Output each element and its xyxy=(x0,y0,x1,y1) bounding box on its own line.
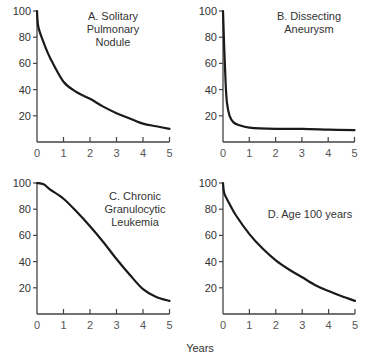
x-tick-label: 4 xyxy=(140,147,146,159)
x-tick-label: 4 xyxy=(326,319,332,331)
x-tick-label: 2 xyxy=(273,319,279,331)
y-tick-label: 20 xyxy=(19,282,31,294)
chart-canvas: 2040608010001234520406080100012345204060… xyxy=(0,0,368,360)
panel-c-title-line: Granulocytic xyxy=(95,203,175,216)
survival-curves-figure: 2040608010001234520406080100012345204060… xyxy=(0,0,368,360)
panel-a-title: A. Solitary Pulmonary Nodule xyxy=(58,10,168,49)
y-tick-label: 40 xyxy=(19,84,31,96)
panel-c-title-line: Leukemia xyxy=(95,216,175,229)
x-tick-label: 5 xyxy=(351,147,357,159)
y-tick-label: 20 xyxy=(205,282,217,294)
x-tick-label: 3 xyxy=(299,319,305,331)
y-tick-label: 40 xyxy=(19,256,31,268)
x-tick-label: 5 xyxy=(166,147,172,159)
y-tick-label: 100 xyxy=(199,177,217,189)
survival-curve xyxy=(223,183,355,301)
x-tick-label: 3 xyxy=(113,147,119,159)
y-tick-label: 60 xyxy=(19,57,31,69)
x-tick-label: 0 xyxy=(220,147,226,159)
x-tick-label: 2 xyxy=(87,319,93,331)
x-tick-label: 0 xyxy=(220,319,226,331)
y-tick-label: 60 xyxy=(205,57,217,69)
x-tick-label: 0 xyxy=(34,147,40,159)
y-tick-label: 100 xyxy=(199,5,217,17)
x-tick-label: 1 xyxy=(60,319,66,331)
panel-d: 20406080100012345 xyxy=(199,177,358,331)
panel-b-title: B. Dissecting Aneurysm xyxy=(254,10,364,36)
x-tick-label: 1 xyxy=(246,147,252,159)
panel-c-title: C. Chronic Granulocytic Leukemia xyxy=(95,190,175,229)
x-tick-label: 2 xyxy=(273,147,279,159)
y-tick-label: 100 xyxy=(13,5,31,17)
x-tick-label: 3 xyxy=(113,319,119,331)
panel-c-title-line: C. Chronic xyxy=(95,190,175,203)
y-tick-label: 80 xyxy=(205,203,217,215)
y-tick-label: 60 xyxy=(19,229,31,241)
x-tick-label: 5 xyxy=(166,319,172,331)
y-tick-label: 80 xyxy=(19,31,31,43)
x-tick-label: 3 xyxy=(299,147,305,159)
x-tick-label: 0 xyxy=(34,319,40,331)
y-tick-label: 80 xyxy=(19,203,31,215)
panel-a-title-line: Nodule xyxy=(58,36,168,49)
y-tick-label: 20 xyxy=(19,110,31,122)
panel-b-title-line: B. Dissecting xyxy=(254,10,364,23)
y-tick-label: 20 xyxy=(205,110,217,122)
panel-a-title-line: A. Solitary xyxy=(58,10,168,23)
y-tick-label: 40 xyxy=(205,84,217,96)
panel-d-title-line: D. Age 100 years xyxy=(252,208,368,221)
x-tick-label: 5 xyxy=(352,319,358,331)
panel-d-title: D. Age 100 years xyxy=(252,208,368,221)
x-tick-label: 4 xyxy=(325,147,331,159)
y-tick-label: 100 xyxy=(13,177,31,189)
y-tick-label: 60 xyxy=(205,229,217,241)
panel-b-title-line: Aneurysm xyxy=(254,23,364,36)
x-tick-label: 4 xyxy=(140,319,146,331)
y-tick-label: 80 xyxy=(205,31,217,43)
x-tick-label: 1 xyxy=(246,319,252,331)
x-axis-label: Years xyxy=(180,342,220,354)
y-tick-label: 40 xyxy=(205,256,217,268)
x-tick-label: 2 xyxy=(87,147,93,159)
x-tick-label: 1 xyxy=(60,147,66,159)
panel-a-title-line: Pulmonary xyxy=(58,23,168,36)
